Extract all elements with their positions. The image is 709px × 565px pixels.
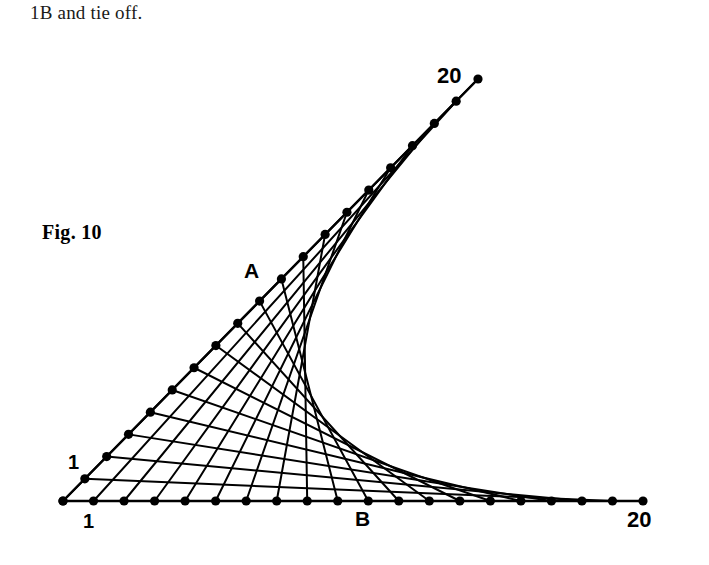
stitch-thread xyxy=(155,146,413,501)
ray-a-point-9 xyxy=(233,319,242,328)
ray-b-point-14 xyxy=(455,496,464,505)
ray-b-point-2 xyxy=(89,496,98,505)
figure-stage: Fig. 10 A B 1 1 20 20 xyxy=(0,0,709,565)
ray-a-point-12 xyxy=(299,252,308,261)
stitch-thread xyxy=(150,412,521,501)
ray-b-point-13 xyxy=(425,496,434,505)
ray-b-point-3 xyxy=(119,496,128,505)
ray-a-end-label: 20 xyxy=(437,65,461,87)
ray-b-end-label: 20 xyxy=(627,509,651,531)
ray-b-start-label: 1 xyxy=(83,511,94,531)
ray-a-label: A xyxy=(244,260,259,281)
ray-b-point-20 xyxy=(638,496,647,505)
ray-b-point-10 xyxy=(333,496,342,505)
ray-a-point-7 xyxy=(189,363,198,372)
stitch-thread xyxy=(260,301,369,501)
ray-a-point-18 xyxy=(430,119,439,128)
ray-b-point-16 xyxy=(516,496,525,505)
ray-b-point-17 xyxy=(547,496,556,505)
ray-a-point-16 xyxy=(386,163,395,172)
ray-b-point-12 xyxy=(394,496,403,505)
ray-b-point-11 xyxy=(364,496,373,505)
ray-a-point-5 xyxy=(146,408,155,417)
ray-a-point-19 xyxy=(452,97,461,106)
ray-a-point-14 xyxy=(342,208,351,217)
ray-a-point-11 xyxy=(277,274,286,283)
ray-a-point-17 xyxy=(408,141,417,150)
ray-a-point-15 xyxy=(364,185,373,194)
curve-stitching-diagram xyxy=(0,0,709,565)
stitch-thread xyxy=(124,123,434,501)
ray-b-point-4 xyxy=(150,496,159,505)
ray-a-line xyxy=(63,79,478,501)
stitch-thread xyxy=(238,323,399,501)
ray-b-label: B xyxy=(355,508,370,529)
ray-a-point-6 xyxy=(168,385,177,394)
ray-b-point-15 xyxy=(486,496,495,505)
ray-b-point-9 xyxy=(303,496,312,505)
ray-a-point-3 xyxy=(102,452,111,461)
ray-b-point-8 xyxy=(272,496,281,505)
thread-lines-group xyxy=(63,79,643,501)
ray-a-point-2 xyxy=(80,474,89,483)
ray-a-point-20 xyxy=(473,74,482,83)
ray-b-point-7 xyxy=(242,496,251,505)
ray-a-point-8 xyxy=(211,341,220,350)
ray-b-point-1 xyxy=(58,496,67,505)
stitch-thread xyxy=(194,368,460,501)
ray-a-point-4 xyxy=(124,430,133,439)
ray-a-point-13 xyxy=(321,230,330,239)
ray-b-point-19 xyxy=(608,496,617,505)
ray-b-point-18 xyxy=(577,496,586,505)
ray-b-point-5 xyxy=(181,496,190,505)
ray-a-point-10 xyxy=(255,297,264,306)
figure-caption: Fig. 10 xyxy=(42,222,102,242)
ray-b-point-6 xyxy=(211,496,220,505)
ray-a-start-label: 1 xyxy=(68,452,79,472)
